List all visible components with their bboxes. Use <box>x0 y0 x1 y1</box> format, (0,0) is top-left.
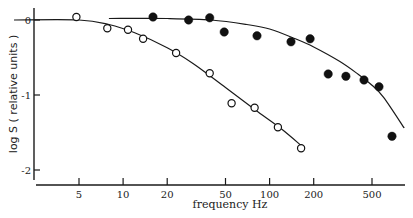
open-circle-point <box>140 35 147 42</box>
filled-circle-point <box>342 72 350 80</box>
x-tick-label: 200 <box>304 189 323 200</box>
fit-curves <box>14 18 404 147</box>
y-tick-label: -1 <box>21 90 31 101</box>
filled-circle-point <box>375 83 383 91</box>
data-points <box>73 13 396 152</box>
open-circle-point <box>228 100 235 107</box>
filled-circle-point <box>149 13 157 21</box>
x-tick-label: 500 <box>362 189 381 200</box>
filled-circle-point <box>184 16 192 24</box>
filled-circle-point <box>324 70 332 78</box>
filled-circle-point <box>220 28 228 36</box>
axes: 0-1-25102050100200500 <box>21 8 405 200</box>
y-axis-label: log S ( relative units ) <box>7 35 20 153</box>
filled-circle-point <box>306 35 314 43</box>
open-circle-point <box>173 49 180 56</box>
x-axis-label: frequency Hz <box>193 198 268 211</box>
open-circle-point <box>251 104 258 111</box>
x-tick-label: 10 <box>117 189 130 200</box>
open-circle-point <box>298 145 305 152</box>
open-circle-point <box>124 26 131 33</box>
filled-circle-point <box>253 32 261 40</box>
filled-circle-point <box>388 132 396 140</box>
filled-circle-point <box>360 76 368 84</box>
open-circle-point <box>206 70 213 77</box>
open-circle-point <box>73 13 80 20</box>
x-tick-label: 20 <box>161 189 174 200</box>
open-circle-point <box>274 124 281 131</box>
filled-circle-point <box>206 14 214 22</box>
chart: 0-1-25102050100200500 frequency Hz log S… <box>0 0 413 218</box>
x-tick-label: 5 <box>76 189 82 200</box>
open-circle-point <box>104 25 111 32</box>
y-tick-label: -2 <box>21 165 31 176</box>
filled-circle-point <box>287 38 295 46</box>
